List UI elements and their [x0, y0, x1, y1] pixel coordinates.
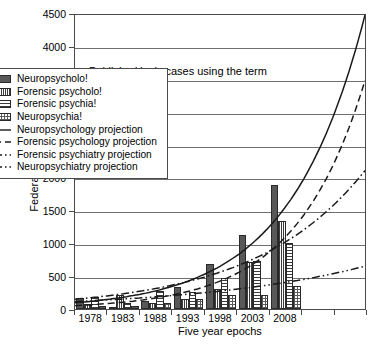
x-tick-mark: [366, 310, 367, 315]
legend-label: Forensic psychology projection: [17, 137, 157, 147]
x-tick-mark: [171, 310, 172, 315]
legend-label: Forensic psychiatry projection: [17, 150, 152, 160]
legend-swatch-solid: [0, 75, 11, 83]
x-tick-mark: [301, 310, 302, 315]
legend-label: Neuropsychology projection: [17, 125, 143, 135]
legend-line-solid: [0, 126, 11, 134]
y-tick-mark: [69, 211, 74, 212]
x-tick-mark: [204, 310, 205, 315]
legend-line-dash-dot-dot: [0, 163, 11, 171]
legend-line-dash-dot: [0, 151, 11, 159]
y-tick-mark: [69, 244, 74, 245]
x-tick-label: 1983: [111, 312, 134, 324]
y-tick-mark: [69, 14, 74, 15]
y-tick-mark: [69, 277, 74, 278]
legend-item[interactable]: Neuropsycholo!: [0, 73, 162, 86]
legend-item[interactable]: Neuropsychia!: [0, 111, 162, 124]
legend-item[interactable]: Forensic psycholo!: [0, 86, 162, 99]
x-tick-mark: [334, 310, 335, 315]
x-tick-mark: [74, 310, 75, 315]
legend-line-dashed: [0, 138, 11, 146]
legend-swatch-grid: [0, 113, 11, 121]
x-tick-label: 1978: [79, 312, 102, 324]
projection-curve: [75, 266, 365, 301]
legend-swatch-horizontal: [0, 100, 11, 108]
x-tick-label: 2008: [273, 312, 296, 324]
y-tick-mark: [69, 47, 74, 48]
legend-item[interactable]: Neuropsychiatry projection: [0, 161, 162, 174]
legend-label: Neuropsychia!: [17, 112, 82, 122]
x-tick-mark: [106, 310, 107, 315]
chart-container: Federal and state cases Five year epochs…: [0, 0, 381, 347]
y-tick-label: 4500: [26, 8, 66, 20]
x-tick-mark: [269, 310, 270, 315]
x-tick-label: 1998: [208, 312, 231, 324]
projection-curve: [75, 171, 365, 300]
x-tick-label: 2003: [241, 312, 264, 324]
legend-swatch-vertical: [0, 88, 11, 96]
y-tick-label: 1500: [26, 205, 66, 217]
legend-item[interactable]: Forensic psychology projection: [0, 136, 162, 149]
legend-item[interactable]: Neuropsychology projection: [0, 123, 162, 136]
legend-item[interactable]: Forensic psychiatry projection: [0, 149, 162, 162]
y-tick-label: 1000: [26, 238, 66, 250]
x-tick-mark: [139, 310, 140, 315]
legend-label: Neuropsychiatry projection: [17, 162, 138, 172]
x-axis-title: Five year epochs: [74, 325, 366, 337]
legend-item[interactable]: Forensic psychia!: [0, 98, 162, 111]
legend-label: Forensic psychia!: [17, 99, 96, 109]
legend-label: Forensic psycholo!: [17, 87, 102, 97]
y-tick-label: 4000: [26, 41, 66, 53]
x-tick-mark: [236, 310, 237, 315]
y-tick-label: 0: [26, 304, 66, 316]
legend-box: Neuropsycholo!Forensic psycholo!Forensic…: [0, 68, 168, 179]
x-tick-label: 1993: [176, 312, 199, 324]
x-tick-label: 1988: [143, 312, 166, 324]
y-tick-label: 500: [26, 271, 66, 283]
legend-label: Neuropsycholo!: [17, 74, 88, 84]
